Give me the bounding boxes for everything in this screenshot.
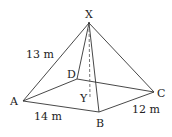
- height-xy: [89, 24, 90, 97]
- apex-point: [88, 22, 90, 24]
- edge-cd: [77, 79, 154, 92]
- edge-xa: [23, 23, 89, 101]
- edge-xb: [89, 23, 99, 112]
- label-edge-xa: 13 m: [26, 48, 54, 61]
- edge-da: [23, 79, 77, 101]
- label-c: C: [157, 87, 165, 100]
- edge-xc: [89, 23, 154, 92]
- label-d: D: [67, 68, 76, 81]
- label-b: B: [96, 117, 104, 130]
- label-x: X: [85, 8, 93, 21]
- label-edge-ab: 14 m: [34, 110, 62, 123]
- label-y: Y: [79, 92, 88, 105]
- pyramid-diagram: X A B C D Y 13 m 14 m 12 m: [0, 0, 172, 137]
- label-a: A: [9, 95, 19, 108]
- edge-xd: [77, 23, 89, 79]
- label-edge-bc: 12 m: [132, 103, 160, 116]
